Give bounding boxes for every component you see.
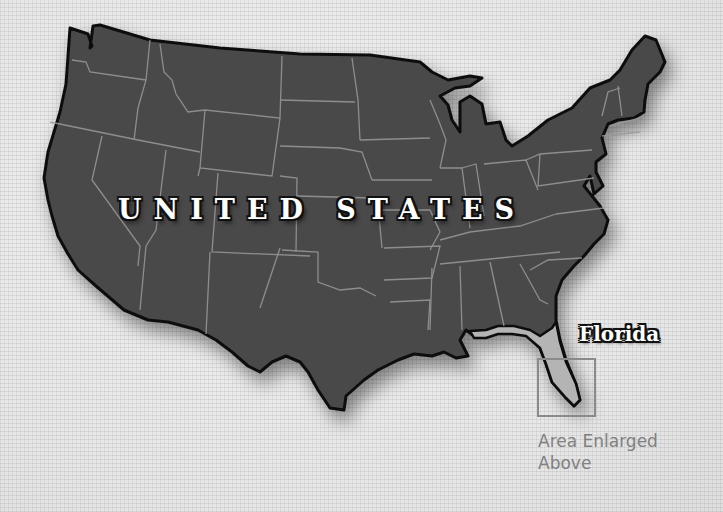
- inset-note: Area EnlargedAbove: [538, 430, 718, 474]
- country-label: UNITED STATES: [118, 194, 538, 225]
- florida-label: Florida: [579, 322, 659, 346]
